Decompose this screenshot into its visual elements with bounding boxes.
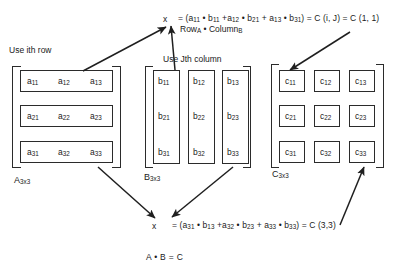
matrix-b-left-bracket [145, 66, 153, 168]
matrix-a-cell-a33: a33 [90, 147, 102, 157]
arrow-b-col3-to-bottom-equation [172, 167, 233, 217]
matrix-a-cell-a21: a21 [27, 111, 39, 121]
hint-use-ith-row: Use ith row [9, 45, 52, 55]
matrix-c-cell-c13: c13 [355, 76, 366, 86]
matrix-a-cell-a13: a13 [90, 76, 102, 86]
matrix-multiplication-diagram: x = (a11 • b11 +a12 • b21 + a13 • b31) =… [0, 0, 393, 272]
matrix-c-cell-c33: c33 [355, 147, 366, 157]
matrix-b-cell-b11: b11 [158, 76, 169, 86]
product-label: A • B = C [146, 252, 183, 262]
matrix-c-cell-c21: c21 [285, 111, 296, 121]
matrix-c-cell-c11: c11 [285, 76, 296, 86]
matrix-c-cell-c23: c23 [355, 111, 366, 121]
matrix-b-cell-b31: b31 [158, 147, 170, 157]
matrix-b-cell-b13: b13 [227, 76, 239, 86]
matrix-c-cell-c12: c12 [320, 76, 331, 86]
matrix-b-cell-b12: b12 [193, 76, 205, 86]
matrix-b-cell-b22: b22 [193, 111, 205, 121]
matrix-c-cell-c32: c32 [320, 147, 331, 157]
arrow-c33-to-bottom-equation [340, 167, 364, 225]
matrix-a-cell-a22: a22 [58, 111, 70, 121]
matrix-c-left-bracket [271, 64, 279, 168]
matrix-b-cell-b32: b32 [193, 147, 205, 157]
matrix-a-label: A3x3 [14, 175, 30, 185]
hint-use-jth-column: Use Jth column [163, 54, 222, 64]
arrow-top-equation-to-c11 [290, 32, 350, 70]
bottom-equation-x-symbol: x [152, 221, 156, 231]
matrix-a-cell-a12: a12 [58, 76, 70, 86]
matrix-c-right-bracket [376, 64, 384, 168]
bottom-equation-text: = (a31 • b13 +a32 • b23 + a33 • b33) = C… [172, 220, 336, 232]
top-equation-subnote: RowA • ColumnB [180, 24, 242, 34]
top-equation-x-symbol: x [163, 14, 167, 24]
matrix-c-cell-c22: c22 [320, 111, 331, 121]
matrix-a-cell-a32: a32 [58, 147, 70, 157]
matrix-b-label: B3x3 [144, 172, 160, 182]
matrix-a-cell-a23: a23 [90, 111, 102, 121]
matrix-c-label: C3x3 [272, 169, 289, 179]
matrix-b-cell-b33: b33 [227, 147, 239, 157]
matrix-a-right-bracket [112, 66, 121, 168]
matrix-b-cell-b23: b23 [227, 111, 239, 121]
arrow-a-row1-to-top-equation [83, 27, 166, 71]
matrix-a-cell-a11: a11 [27, 76, 38, 86]
matrix-b-cell-b21: b21 [158, 111, 170, 121]
matrix-a-cell-a31: a31 [27, 147, 39, 157]
matrix-c-cell-c31: c31 [285, 147, 296, 157]
